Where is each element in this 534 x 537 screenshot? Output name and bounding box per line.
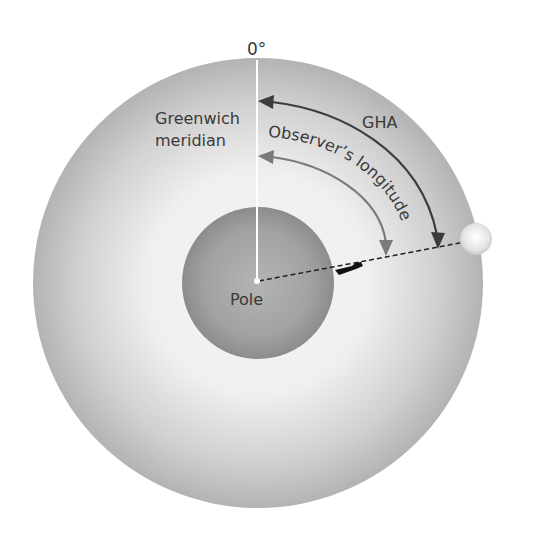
gha-label: GHA <box>362 113 397 132</box>
greenwich-label-line2: meridian <box>155 131 226 150</box>
pole-label: Pole <box>230 290 263 309</box>
zero-degree-label: 0° <box>247 39 266 59</box>
greenwich-label-line1: Greenwich <box>155 109 240 128</box>
pole-dot <box>254 278 260 284</box>
star-icon <box>460 223 492 255</box>
gha-diagram: 0° Greenwich meridian GHA Observer’s lon… <box>0 0 534 537</box>
